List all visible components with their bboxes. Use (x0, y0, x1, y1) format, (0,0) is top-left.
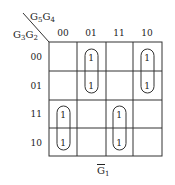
caption-variable: G (97, 165, 105, 176)
cell-r01-c10: 1 (142, 82, 152, 91)
col-var-1: G (30, 11, 38, 22)
cell-r10-c11: 1 (114, 139, 124, 148)
cell-r00-c10: 1 (142, 54, 152, 63)
col-label-00: 00 (49, 28, 77, 38)
row-label-00: 00 (22, 52, 42, 62)
col-label-11: 11 (105, 28, 133, 38)
cell-r10-c00: 1 (58, 139, 68, 148)
cell-r00-c01: 1 (86, 54, 96, 63)
cell-r11-c11: 1 (114, 111, 124, 120)
row-variables-label: G3G2 (13, 30, 38, 43)
col-label-10: 10 (133, 28, 161, 38)
col-var-2-sub: 4 (50, 16, 54, 24)
row-label-10: 10 (22, 138, 42, 148)
cell-r11-c00: 1 (58, 111, 68, 120)
cell-r01-c01: 1 (86, 82, 96, 91)
row-label-01: 01 (22, 81, 42, 91)
caption-subscript: 1 (105, 170, 109, 178)
row-var-2-sub: 2 (33, 34, 37, 42)
row-label-11: 11 (22, 109, 42, 119)
col-variables-label: G5G4 (30, 12, 55, 25)
map-caption: G1 (97, 166, 109, 179)
col-label-01: 01 (77, 28, 105, 38)
row-var-1: G (13, 29, 21, 40)
